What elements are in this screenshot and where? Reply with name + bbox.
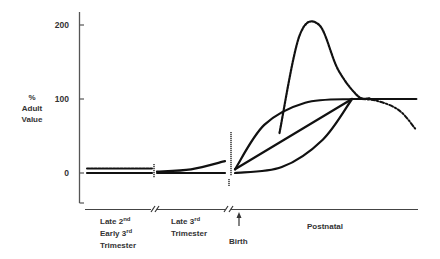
y-tick-label-100: 100 bbox=[55, 94, 69, 104]
y-axis-label-line-2: Adult bbox=[22, 104, 43, 113]
period-label-postnatal: Postnatal bbox=[307, 222, 343, 231]
y-axis-label-line-1: % bbox=[28, 93, 35, 102]
svg-text:Late 2nd: Late 2nd bbox=[100, 216, 131, 226]
developmental-chart: 0100200 % Adult Value Late 2nd Early 3rd… bbox=[0, 0, 440, 259]
y-axis-label-line-3: Value bbox=[22, 115, 43, 124]
svg-text:Trimester: Trimester bbox=[171, 229, 207, 238]
birth-arrow-icon bbox=[237, 212, 242, 226]
series-postnatal-linear bbox=[235, 99, 352, 169]
period-label-late-2nd-early-3rd: Late 2nd Early 3rd Trimester bbox=[100, 216, 136, 250]
y-tick-label-0: 0 bbox=[64, 168, 69, 178]
series-postnatal-decline bbox=[352, 99, 415, 129]
svg-text:Late 3rd: Late 3rd bbox=[171, 216, 200, 226]
period-label-late-3rd: Late 3rd Trimester bbox=[171, 216, 207, 238]
svg-text:Trimester: Trimester bbox=[100, 241, 136, 250]
period-label-birth: Birth bbox=[229, 237, 248, 246]
svg-text:Early 3rd: Early 3rd bbox=[100, 228, 133, 238]
series-late3rd-rising bbox=[157, 161, 225, 171]
y-tick-label-200: 200 bbox=[55, 20, 69, 30]
